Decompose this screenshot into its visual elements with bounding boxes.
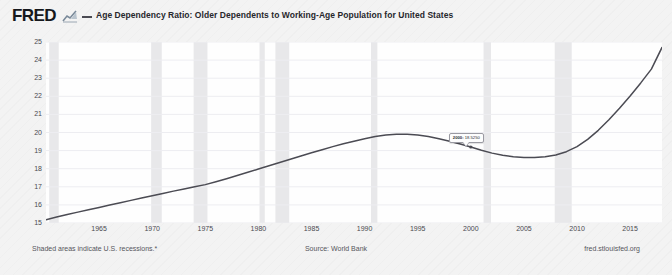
y-axis-tick-label: 18 xyxy=(16,165,42,172)
y-axis-tick-label: 24 xyxy=(16,56,42,63)
site-url[interactable]: fred.stlouisfed.org xyxy=(584,245,640,252)
x-axis-tick-label: 1980 xyxy=(238,225,278,232)
line-chart-svg xyxy=(46,42,662,223)
x-axis-tick-label: 1970 xyxy=(132,225,172,232)
x-axis-tick-label: 1975 xyxy=(185,225,225,232)
chart-footer: Shaded areas indicate U.S. recessions.* … xyxy=(0,245,672,261)
data-point-tooltip: 2000: 18.5250 xyxy=(449,133,484,143)
fred-logo[interactable]: FRED xyxy=(12,7,56,24)
x-axis-tick-label: 2010 xyxy=(557,225,597,232)
y-axis-tick-label: 15 xyxy=(16,219,42,226)
y-axis-tick-label: 25 xyxy=(16,38,42,45)
annotated-data-point xyxy=(469,145,472,148)
x-axis-tick-label: 1995 xyxy=(398,225,438,232)
plot-area: 2000: 18.5250 xyxy=(46,42,662,223)
x-axis-tick-label: 1965 xyxy=(79,225,119,232)
tooltip-date: 2000: xyxy=(453,135,464,140)
chart-header: FRED Age Dependency Ratio: Older Depende… xyxy=(0,0,672,30)
fred-chart-screenshot: FRED Age Dependency Ratio: Older Depende… xyxy=(0,0,672,275)
x-axis-ticks: 1965197019751980198519901995200020052010… xyxy=(46,225,662,237)
y-axis-tick-label: 17 xyxy=(16,183,42,190)
mini-line-chart-icon xyxy=(62,10,78,23)
x-axis-tick-label: 2005 xyxy=(504,225,544,232)
source-note: Source: World Bank xyxy=(0,245,672,252)
y-axis-tick-label: 23 xyxy=(16,74,42,81)
x-axis-tick-label: 2015 xyxy=(610,225,650,232)
tooltip-value: 18.5250 xyxy=(465,135,480,140)
y-axis-tick-label: 21 xyxy=(16,110,42,117)
legend-line-icon xyxy=(82,16,92,18)
chart-title: Age Dependency Ratio: Older Dependents t… xyxy=(96,10,453,20)
y-axis-ticks: 1516171819202122232425 xyxy=(14,42,42,223)
x-axis-tick-label: 1990 xyxy=(345,225,385,232)
y-axis-tick-label: 20 xyxy=(16,129,42,136)
x-axis-tick-label: 1985 xyxy=(292,225,332,232)
y-axis-tick-label: 22 xyxy=(16,92,42,99)
x-axis-tick-label: 2000 xyxy=(451,225,491,232)
y-axis-tick-label: 19 xyxy=(16,147,42,154)
y-axis-tick-label: 16 xyxy=(16,201,42,208)
